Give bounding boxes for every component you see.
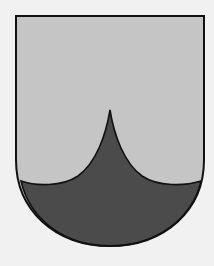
coat-of-arms	[0, 0, 214, 266]
shield-graphic	[0, 0, 214, 266]
